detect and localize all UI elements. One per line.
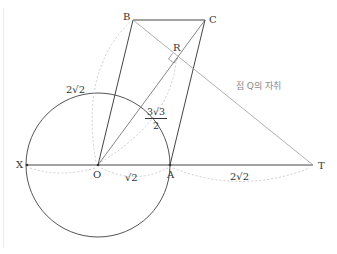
locus-annotation: 점 Q의 자취 [236,82,281,91]
label-c: C [209,15,217,25]
measure-or: 3√3 2 [145,107,167,130]
label-t: T [318,161,325,171]
locus-line-bt [133,20,313,165]
arc-ob [92,22,130,162]
label-o: O [93,170,101,180]
label-x: X [16,160,23,170]
point-a [169,164,172,167]
measure-or-denominator: 2 [145,119,167,131]
point-x [26,164,29,167]
label-r: R [173,43,181,53]
measure-at: 2√2 [230,172,249,182]
measure-oa: √2 [125,173,138,183]
point-o [97,164,100,167]
measure-or-numerator: 3√3 [145,107,167,119]
measure-ob: 2√2 [66,85,85,95]
diagram-canvas [0,0,337,254]
geometry-diagram: B C R X O A T 2√2 3√3 2 √2 2√2 점 Q의 자취 [0,0,337,254]
label-b: B [123,12,130,22]
label-a: A [167,170,174,180]
segment-oc [98,20,205,165]
arc-xo [30,168,95,173]
